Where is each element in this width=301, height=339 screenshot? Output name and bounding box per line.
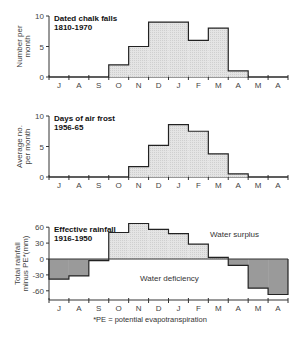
bar — [208, 154, 228, 177]
x-tick-label: M — [215, 181, 222, 190]
y-tick-label: -30 — [32, 271, 44, 280]
bar — [49, 259, 69, 279]
bar — [188, 244, 208, 259]
bar — [248, 259, 268, 288]
x-tick-label: F — [196, 304, 201, 313]
x-tick-label: A — [76, 304, 82, 313]
x-tick-label: D — [156, 304, 162, 313]
x-tick-label: J — [176, 181, 180, 190]
bar — [268, 259, 288, 295]
x-tick-label: J — [57, 304, 61, 313]
bar — [188, 131, 208, 177]
x-tick-label: N — [136, 181, 142, 190]
x-tick-label: M — [255, 81, 262, 90]
y-axis-label: per month — [23, 128, 32, 164]
bar — [169, 234, 189, 259]
chart-subtitle: 1956-65 — [54, 123, 84, 132]
x-tick-label: A — [275, 304, 281, 313]
y-tick-label: 0 — [40, 255, 45, 264]
x-tick-label: J — [176, 81, 180, 90]
y-tick-label: 30 — [35, 239, 44, 248]
bar — [109, 233, 129, 260]
x-tick-label: J — [176, 304, 180, 313]
bar — [129, 223, 149, 259]
bar — [69, 259, 89, 276]
y-axis-label: month — [23, 35, 32, 57]
x-tick-label: A — [76, 81, 82, 90]
chart-title: Days of air frost — [54, 114, 115, 123]
x-tick-label: M — [255, 304, 262, 313]
x-tick-label: S — [96, 181, 101, 190]
y-axis-label: minus PE*(mm) — [21, 235, 30, 291]
x-tick-label: A — [236, 181, 242, 190]
y-tick-label: 10 — [35, 112, 44, 121]
x-tick-label: N — [136, 304, 142, 313]
annotation-water-surplus: Water surplus — [210, 230, 259, 239]
x-tick-label: F — [196, 181, 201, 190]
x-tick-label: M — [255, 181, 262, 190]
x-tick-label: S — [96, 304, 101, 313]
x-tick-label: D — [156, 181, 162, 190]
y-tick-label: 5 — [40, 143, 45, 152]
bar — [188, 40, 208, 77]
y-tick-label: 0 — [40, 173, 45, 182]
x-tick-label: A — [236, 304, 242, 313]
bar — [129, 47, 149, 78]
chart-title: Dated chalk falls — [54, 14, 118, 23]
x-tick-label: J — [57, 81, 61, 90]
chart-title: Effective rainfall — [54, 225, 116, 234]
x-tick-label: N — [136, 81, 142, 90]
footnote: *PE = potential evapotranspiration — [93, 315, 207, 324]
charts-svg: 0510JASONDJFMAMADated chalk falls1810-19… — [0, 0, 301, 339]
chart-subtitle: 1916-1950 — [54, 234, 93, 243]
x-tick-label: J — [57, 181, 61, 190]
bar — [228, 71, 248, 77]
y-tick-label: -60 — [32, 287, 44, 296]
x-tick-label: O — [116, 181, 122, 190]
x-tick-label: S — [96, 81, 101, 90]
x-tick-label: A — [275, 181, 281, 190]
bar — [109, 65, 129, 77]
bar — [129, 167, 149, 177]
bar — [149, 145, 169, 177]
bar — [149, 22, 169, 77]
bar — [169, 22, 189, 77]
x-tick-label: F — [196, 81, 201, 90]
y-tick-label: 0 — [40, 73, 45, 82]
x-tick-label: A — [76, 181, 82, 190]
y-tick-label: 5 — [40, 43, 45, 52]
bar — [149, 229, 169, 259]
x-tick-label: O — [116, 81, 122, 90]
annotation-water-deficiency: Water deficiency — [140, 274, 199, 283]
x-tick-label: M — [215, 304, 222, 313]
bar — [169, 125, 189, 177]
y-tick-label: 60 — [35, 223, 44, 232]
x-tick-label: O — [116, 304, 122, 313]
x-tick-label: A — [236, 81, 242, 90]
x-tick-label: D — [156, 81, 162, 90]
chart-subtitle: 1810-1970 — [54, 23, 93, 32]
x-tick-label: M — [215, 81, 222, 90]
figure: 0510JASONDJFMAMADated chalk falls1810-19… — [0, 0, 301, 339]
y-tick-label: 10 — [35, 12, 44, 21]
bar — [208, 28, 228, 77]
bar — [228, 259, 248, 265]
x-tick-label: A — [275, 81, 281, 90]
